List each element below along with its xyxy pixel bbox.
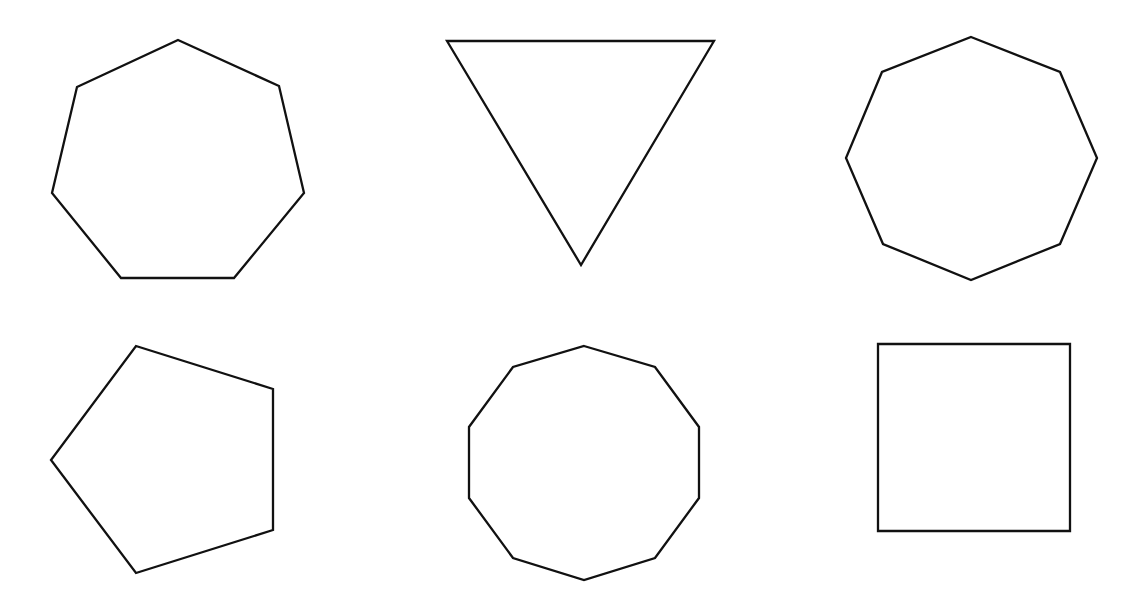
shapes-canvas bbox=[0, 0, 1142, 603]
decagon-shape bbox=[469, 346, 699, 580]
octagon-shape bbox=[846, 37, 1097, 280]
pentagon-shape bbox=[51, 346, 273, 573]
heptagon-shape bbox=[52, 40, 304, 278]
triangle-shape bbox=[447, 41, 714, 265]
square-shape bbox=[878, 344, 1070, 531]
